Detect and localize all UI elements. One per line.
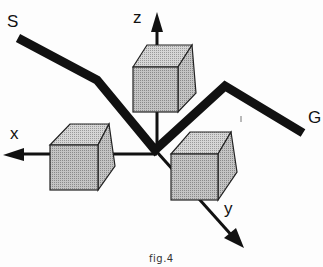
cube-x xyxy=(50,124,115,190)
x-axis-label: x xyxy=(10,124,19,144)
figure-caption: fig.4 xyxy=(149,253,174,264)
diagram-svg xyxy=(0,0,323,267)
z-arrow-icon xyxy=(151,12,163,32)
cube-y xyxy=(171,132,237,200)
x-arrow-icon xyxy=(3,148,24,161)
z-axis-label: z xyxy=(133,8,142,28)
y-axis-label: y xyxy=(224,199,233,219)
start-label: S xyxy=(7,12,18,32)
goal-label: G xyxy=(308,108,321,128)
cube-z xyxy=(133,45,196,112)
figure-canvas: S G z x y fig.4 xyxy=(0,0,323,267)
